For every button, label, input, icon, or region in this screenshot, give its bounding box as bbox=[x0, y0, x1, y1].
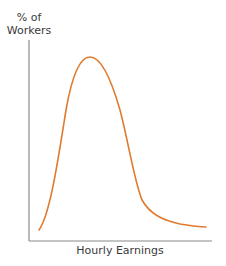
x-axis-label: Hourly Earnings bbox=[28, 244, 212, 258]
distribution-curve bbox=[39, 57, 206, 230]
chart-plot bbox=[0, 0, 226, 266]
